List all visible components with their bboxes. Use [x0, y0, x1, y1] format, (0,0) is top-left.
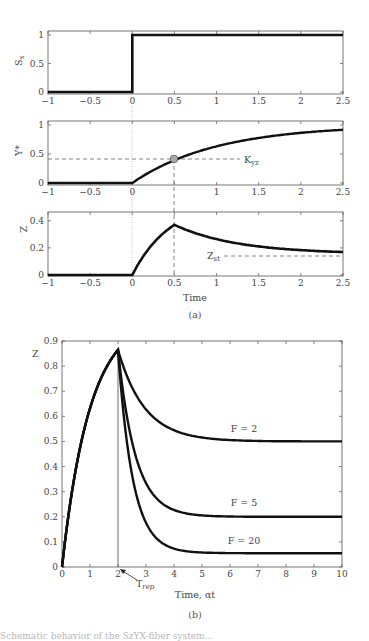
y-tick-label: 0.8: [44, 361, 59, 371]
x-tick-label: 1: [87, 569, 93, 579]
x-tick-label: 1: [214, 96, 220, 106]
sx-step-line: [48, 35, 343, 92]
x-tick-label: 3: [143, 569, 149, 579]
kyz-label: Kyz: [244, 154, 259, 167]
panel-a1: −1−0.500.511.522.500.51 Sx: [13, 30, 350, 106]
x-tick-label: 2.5: [336, 96, 351, 106]
axis-ticks: 01234567891000.10.20.30.40.50.60.70.80.9: [44, 336, 348, 579]
x-tick-label: 2: [298, 278, 304, 288]
curve-f5: [62, 350, 342, 567]
y-tick-label: 0.7: [44, 386, 59, 396]
x-tick-label: 1.5: [252, 278, 267, 288]
label-f5: F = 5: [231, 497, 258, 508]
y-tick-label: 0.3: [44, 487, 59, 497]
x-tick-label: 0.5: [167, 96, 182, 106]
z-curve: [48, 225, 343, 275]
arrow-head-icon: [120, 569, 126, 574]
x-tick-label: 5: [199, 569, 205, 579]
x-tick-label: 2: [298, 187, 304, 197]
figure: −1−0.500.511.522.500.51 Sx −1−0.5011.522…: [0, 0, 369, 641]
y-tick-label: 0.6: [44, 411, 59, 421]
x-tick-label: 1: [214, 278, 220, 288]
y-tick-label: 1: [38, 30, 44, 40]
x-tick-label: 0: [129, 278, 135, 288]
plot-frame: [62, 341, 342, 567]
x-tick-label: −0.5: [79, 187, 101, 197]
x-tick-label: 0: [129, 187, 135, 197]
x-tick-label: 1.5: [252, 96, 267, 106]
panel-b: 01234567891000.10.20.30.40.50.60.70.80.9…: [32, 336, 348, 620]
x-tick-label: 2: [115, 569, 121, 579]
x-tick-label: 2: [298, 96, 304, 106]
x-tick-label: 10: [336, 569, 348, 579]
y-tick-label: 0.5: [44, 436, 59, 446]
ylabel-ystar: Y*: [13, 145, 24, 157]
y-tick-label: 0: [52, 562, 58, 572]
curve-f2: [62, 350, 342, 567]
y-tick-label: 0.4: [30, 216, 45, 226]
y-tick-label: 0.2: [44, 512, 58, 522]
y-tick-label: 0: [38, 87, 44, 97]
x-tick-label: −0.5: [79, 278, 101, 288]
xlabel-time-at: Time, αt: [175, 589, 215, 600]
panel-a3: −1−0.500.511.522.500.20.4 Zst Z Time (a): [18, 192, 350, 320]
x-tick-label: 9: [311, 569, 317, 579]
label-f2: F = 2: [231, 423, 258, 434]
x-tick-label: 2.5: [336, 187, 351, 197]
x-tick-label: 0: [59, 569, 65, 579]
y-tick-label: 1: [38, 120, 44, 130]
axis-ticks: −1−0.500.511.522.500.51: [30, 30, 351, 106]
ylabel-sx: Sx: [13, 55, 26, 66]
x-tick-label: 8: [283, 569, 289, 579]
panel-a2: −1−0.5011.522.500.51 Kyz Y*: [13, 106, 350, 235]
caption-fragment: Schematic behavior of the SzYX-fiber sys…: [0, 631, 369, 641]
y-tick-label: 0.4: [44, 462, 59, 472]
x-tick-label: 4: [171, 569, 177, 579]
x-tick-label: 1: [214, 187, 220, 197]
curve-f20: [62, 350, 342, 567]
ylabel-z-b: Z: [32, 348, 39, 359]
caption-b: (b): [188, 609, 202, 620]
x-tick-label: −1: [41, 187, 54, 197]
ylabel-z: Z: [18, 226, 29, 233]
y-tick-label: 0.9: [44, 336, 59, 346]
y-tick-label: 0.5: [30, 59, 45, 69]
x-tick-label: 6: [227, 569, 233, 579]
plot-frame: [48, 212, 343, 276]
y-tick-label: 0.1: [44, 537, 58, 547]
trep-label: Trep: [136, 578, 155, 591]
y-tick-label: 0.2: [30, 243, 44, 253]
x-tick-label: 0: [129, 96, 135, 106]
caption-a: (a): [188, 309, 201, 320]
x-tick-label: −1: [41, 96, 54, 106]
zst-label: Zst: [207, 250, 220, 263]
x-tick-label: 0.5: [167, 278, 182, 288]
y-tick-label: 0: [38, 270, 44, 280]
plot-frame: [48, 31, 343, 94]
label-f20: F = 20: [228, 535, 261, 546]
xlabel-time: Time: [183, 292, 207, 303]
x-tick-label: −0.5: [79, 96, 101, 106]
x-tick-label: 2.5: [336, 278, 351, 288]
y-tick-label: 0: [38, 178, 44, 188]
kyz-marker: [170, 155, 178, 163]
x-tick-label: 1.5: [252, 187, 267, 197]
y-tick-label: 0.5: [30, 149, 45, 159]
ystar-curve: [48, 130, 343, 183]
x-tick-label: 7: [255, 569, 261, 579]
